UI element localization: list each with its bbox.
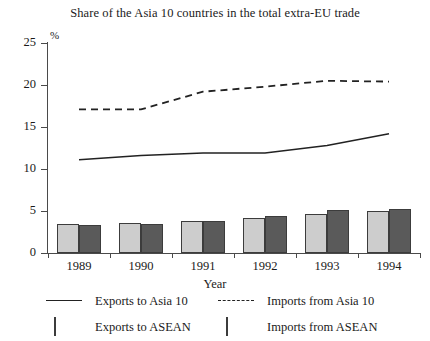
chart-figure: Share of the Asia 10 countries in the to… bbox=[0, 0, 430, 341]
legend-entry-exports-asia10: Exports to Asia 10 bbox=[43, 289, 215, 313]
legend-label: Exports to ASEAN bbox=[85, 320, 191, 335]
y-tick-label: 25 bbox=[2, 36, 36, 49]
exports-asia10-line bbox=[79, 134, 389, 160]
light-gray-swatch-icon bbox=[43, 318, 85, 336]
legend-label: Exports to Asia 10 bbox=[85, 294, 188, 309]
x-tick-label: 1993 bbox=[297, 259, 357, 274]
y-tick-label: 0 bbox=[2, 246, 36, 259]
legend-entry-exports-asean: Exports to ASEAN bbox=[43, 315, 215, 339]
x-tick bbox=[296, 253, 297, 258]
y-tick bbox=[41, 127, 47, 128]
plot-area bbox=[48, 43, 420, 253]
x-tick-label: 1992 bbox=[235, 259, 295, 274]
legend-entry-imports-asean: Imports from ASEAN bbox=[215, 315, 387, 339]
x-tick bbox=[48, 253, 49, 258]
solid-line-marker-icon bbox=[43, 292, 85, 310]
x-tick bbox=[234, 253, 235, 258]
y-tick-label: 5 bbox=[2, 204, 36, 217]
x-tick bbox=[110, 253, 111, 258]
x-tick-label: 1994 bbox=[359, 259, 419, 274]
y-axis-unit-label: % bbox=[50, 29, 59, 41]
legend-row-lines: Exports to Asia 10 Imports from Asia 10 bbox=[0, 289, 430, 313]
lines-layer bbox=[48, 43, 420, 253]
legend-entry-imports-asia10: Imports from Asia 10 bbox=[215, 289, 387, 313]
dark-gray-swatch-icon bbox=[215, 318, 257, 336]
chart-title: Share of the Asia 10 countries in the to… bbox=[0, 6, 430, 21]
y-tick bbox=[41, 253, 47, 254]
imports-asia10-line bbox=[79, 81, 389, 110]
x-tick-label: 1991 bbox=[173, 259, 233, 274]
y-tick-label: 15 bbox=[2, 120, 36, 133]
legend-row-bars: Exports to ASEAN Imports from ASEAN bbox=[0, 315, 430, 339]
y-tick-label: 20 bbox=[2, 78, 36, 91]
y-tick bbox=[41, 43, 47, 44]
dashed-line-marker-icon bbox=[215, 292, 257, 310]
legend-label: Imports from Asia 10 bbox=[257, 294, 374, 309]
y-tick bbox=[41, 211, 47, 212]
x-tick-label: 1989 bbox=[49, 259, 109, 274]
x-tick bbox=[420, 253, 421, 258]
y-tick-label: 10 bbox=[2, 162, 36, 175]
legend-label: Imports from ASEAN bbox=[257, 320, 377, 335]
y-tick bbox=[41, 85, 47, 86]
x-tick bbox=[172, 253, 173, 258]
x-tick bbox=[358, 253, 359, 258]
x-tick-label: 1990 bbox=[111, 259, 171, 274]
chart-legend: Exports to Asia 10 Imports from Asia 10 … bbox=[0, 289, 430, 341]
y-tick bbox=[41, 169, 47, 170]
